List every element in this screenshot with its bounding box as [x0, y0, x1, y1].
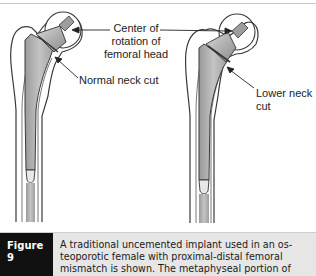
figure-number-tag: Figure 9: [0, 233, 53, 276]
right-femur: [185, 14, 258, 223]
figure-caption: Figure 9 A traditional uncemented implan…: [0, 232, 316, 276]
label-center-of-rotation: Center of rotation of femoral head: [96, 22, 176, 61]
left-femur: [11, 12, 83, 222]
caption-text: A traditional uncemented implant used in…: [60, 239, 314, 275]
label-normal-neck-cut: Normal neck cut: [79, 74, 158, 87]
label-lower-neck-cut: Lower neck cut: [256, 87, 316, 113]
figure-illustration: Center of rotation of femoral head Norma…: [0, 0, 316, 232]
